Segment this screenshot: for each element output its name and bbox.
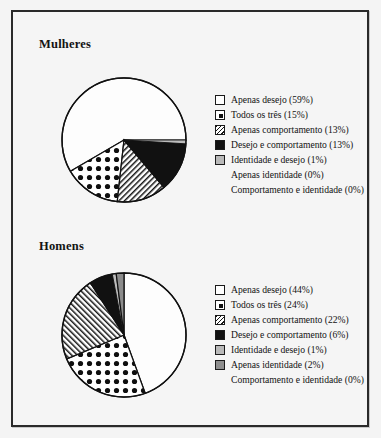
- legend-swatch-identidade-e-desejo: [215, 345, 225, 355]
- legend-swatch-apenas-desejo: [215, 95, 225, 105]
- legend-item: Apenas comportamento (13%): [215, 122, 375, 137]
- legend-item: Comportamento e identidade (0%): [215, 372, 375, 387]
- legend-label: Identidade e desejo (1%): [231, 345, 327, 355]
- legend-item: Todos os três (15%): [215, 107, 375, 122]
- pie-chart-mulheres: [58, 74, 190, 206]
- legend-label: Todos os três (24%): [231, 300, 308, 310]
- legend-swatch-todos-os-tres: [215, 110, 225, 120]
- panel-title-homens: Homens: [39, 239, 84, 254]
- legend-label: Apenas comportamento (22%): [231, 315, 349, 325]
- legend-label: Todos os três (15%): [231, 110, 308, 120]
- legend-swatch-todos-os-tres: [215, 300, 225, 310]
- legend-mulheres: Apenas desejo (59%) Todos os três (15%) …: [215, 92, 375, 197]
- panel-mulheres: Mulheres Apenas desejo (59%) Todos os tr…: [13, 12, 367, 212]
- legend-label: Desejo e comportamento (13%): [231, 140, 353, 150]
- pie-chart-homens: [58, 269, 190, 401]
- legend-label: Apenas comportamento (13%): [231, 125, 349, 135]
- legend-item: Comportamento e identidade (0%): [215, 182, 375, 197]
- figure-canvas: Mulheres Apenas desejo (59%) Todos os tr…: [0, 0, 381, 438]
- legend-item: Apenas identidade (0%): [215, 167, 375, 182]
- legend-item: Identidade e desejo (1%): [215, 152, 375, 167]
- legend-label: Desejo e comportamento (6%): [231, 330, 348, 340]
- legend-item: Desejo e comportamento (6%): [215, 327, 375, 342]
- legend-label: Apenas desejo (44%): [231, 285, 313, 295]
- legend-label: Comportamento e identidade (0%): [215, 185, 364, 195]
- panel-homens: Homens Apenas desejo (44%) Todos os três…: [13, 217, 367, 425]
- legend-item: Identidade e desejo (1%): [215, 342, 375, 357]
- legend-label: Apenas desejo (59%): [231, 95, 313, 105]
- legend-label: Apenas identidade (2%): [231, 360, 324, 370]
- pie-svg-mulheres-slices: [58, 74, 190, 206]
- legend-swatch-apenas-comportamento: [215, 125, 225, 135]
- legend-item: Apenas identidade (2%): [215, 357, 375, 372]
- legend-swatch-apenas-identidade: [215, 360, 225, 370]
- legend-swatch-desejo-e-comportamento: [215, 330, 225, 340]
- legend-label: Apenas identidade (0%): [215, 170, 324, 180]
- panel-title-mulheres: Mulheres: [39, 37, 91, 52]
- legend-label: Identidade e desejo (1%): [231, 155, 327, 165]
- legend-swatch-identidade-e-desejo: [215, 155, 225, 165]
- legend-item: Todos os três (24%): [215, 297, 375, 312]
- legend-item: Apenas desejo (44%): [215, 282, 375, 297]
- legend-item: Apenas desejo (59%): [215, 92, 375, 107]
- legend-homens: Apenas desejo (44%) Todos os três (24%) …: [215, 282, 375, 387]
- legend-swatch-desejo-e-comportamento: [215, 140, 225, 150]
- figure-frame: Mulheres Apenas desejo (59%) Todos os tr…: [11, 10, 369, 427]
- legend-item: Apenas comportamento (22%): [215, 312, 375, 327]
- legend-swatch-apenas-comportamento: [215, 315, 225, 325]
- legend-label: Comportamento e identidade (0%): [215, 375, 364, 385]
- pie-svg-homens: [58, 269, 190, 401]
- legend-item: Desejo e comportamento (13%): [215, 137, 375, 152]
- legend-swatch-apenas-desejo: [215, 285, 225, 295]
